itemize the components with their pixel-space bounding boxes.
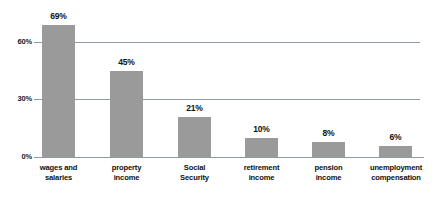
x-label-pension-income: pension income	[295, 163, 362, 182]
x-label-unemployment-compensation: unemployment compensation	[360, 163, 432, 182]
plot-area: 60% 30% 0% 69% 45% 21% 10% 8% 6% wages a…	[0, 0, 440, 205]
y-tick-label-60: 60%	[18, 38, 32, 46]
bar-pension-income	[312, 142, 345, 157]
x-label-property-income: property income	[93, 163, 160, 182]
bar-retirement-income	[245, 138, 278, 157]
y-tick-label-30: 30%	[18, 95, 32, 103]
bar-value-social-security: 21%	[178, 104, 211, 113]
y-tick-30	[34, 99, 41, 100]
y-tick-60	[34, 42, 41, 43]
gridline-30	[41, 99, 420, 100]
x-label-retirement-income: retirement income	[228, 163, 295, 182]
bar-value-property-income: 45%	[110, 58, 143, 67]
bar-chart: 60% 30% 0% 69% 45% 21% 10% 8% 6% wages a…	[0, 0, 440, 205]
y-tick-0	[34, 157, 41, 158]
bar-value-retirement-income: 10%	[245, 125, 278, 134]
bar-value-wages-and-salaries: 69%	[42, 12, 75, 21]
bar-property-income	[110, 71, 143, 157]
bar-unemployment-compensation	[379, 146, 412, 158]
bar-value-pension-income: 8%	[312, 129, 345, 138]
bar-wages-and-salaries	[42, 25, 75, 157]
gridline-60	[41, 42, 420, 43]
x-label-social-security: Social Security	[161, 163, 228, 182]
x-axis-line	[34, 157, 424, 158]
x-label-wages-and-salaries: wages and salaries	[25, 163, 92, 182]
bar-social-security	[178, 117, 211, 157]
y-tick-label-0: 0%	[22, 153, 32, 161]
bar-value-unemployment-compensation: 6%	[379, 133, 412, 142]
